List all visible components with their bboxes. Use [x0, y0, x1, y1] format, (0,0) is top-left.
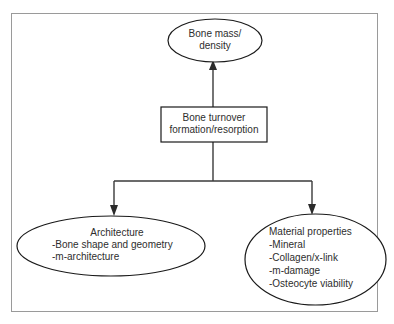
bone-quality-flowchart: Bone mass/ density Bone turnover formati… — [0, 0, 394, 324]
arrowhead-left-branch-icon — [110, 205, 118, 216]
architecture-item-1: -Bone shape and geometry — [52, 239, 173, 250]
material-properties-item-4: -Osteocyte viability — [269, 278, 353, 289]
edge-turnover-to-branches — [110, 142, 316, 216]
architecture-heading: Architecture — [90, 227, 144, 238]
node-bone-turnover[interactable]: Bone turnover formation/resorption — [161, 107, 267, 142]
node-material-properties[interactable]: Material properties -Mineral -Collagen/x… — [245, 214, 386, 305]
bone-turnover-line-2: formation/resorption — [170, 124, 259, 135]
node-bone-mass[interactable]: Bone mass/ density — [168, 19, 262, 62]
architecture-item-2: -m-architecture — [52, 251, 120, 262]
arrowhead-right-branch-icon — [308, 204, 316, 215]
material-properties-item-1: -Mineral — [269, 239, 305, 250]
bone-mass-line-1: Bone mass/ — [189, 28, 242, 39]
diagram-page: Bone mass/ density Bone turnover formati… — [0, 0, 394, 324]
material-properties-item-2: -Collagen/x-link — [269, 252, 339, 263]
node-architecture[interactable]: Architecture -Bone shape and geometry -m… — [17, 216, 205, 276]
bone-turnover-line-1: Bone turnover — [183, 112, 246, 123]
material-properties-heading: Material properties — [269, 226, 352, 237]
bone-mass-line-2: density — [199, 40, 231, 51]
material-properties-item-3: -m-damage — [269, 265, 321, 276]
edge-turnover-to-bone-mass — [209, 60, 217, 107]
